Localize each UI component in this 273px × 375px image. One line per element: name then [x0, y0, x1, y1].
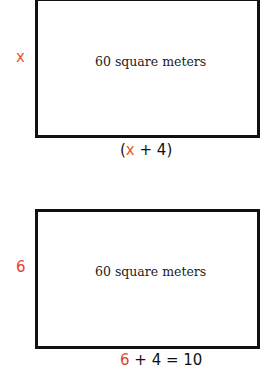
bottom-label-1: (x + 4) [120, 141, 172, 159]
area-label-2: 60 square meters [95, 264, 206, 279]
rectangle-1 [35, 0, 260, 138]
side-label-2: 6 [16, 258, 26, 276]
area-label-1: 60 square meters [95, 54, 206, 69]
bottom-label-2: 6 + 4 = 10 [120, 351, 202, 369]
side-label-1: x [16, 48, 25, 66]
bottom-rest-1: + 4) [135, 141, 173, 159]
bottom-variable-2: 6 [120, 351, 130, 369]
rectangle-2 [35, 209, 260, 349]
bottom-rest-2: + 4 = 10 [130, 351, 203, 369]
bottom-variable-1: x [126, 141, 135, 159]
